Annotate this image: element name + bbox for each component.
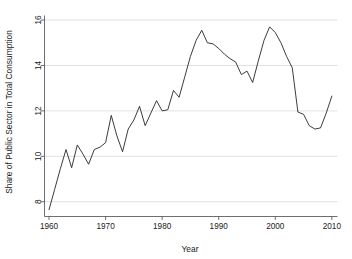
y-axis-tick-labels: 810121416 — [34, 15, 43, 204]
grid-lines — [45, 20, 338, 202]
y-tick-label: 8 — [34, 199, 43, 204]
x-tick-label: 1980 — [153, 222, 172, 231]
x-tick-label: 2000 — [266, 222, 285, 231]
series-line — [49, 27, 332, 210]
x-tick-label: 1990 — [210, 222, 229, 231]
x-tick-label: 2010 — [323, 222, 342, 231]
tick-marks — [41, 20, 332, 220]
x-tick-label: 1960 — [40, 222, 59, 231]
y-tick-label: 10 — [34, 151, 43, 161]
y-tick-label: 16 — [34, 15, 43, 25]
axis-lines — [45, 16, 338, 217]
data-series — [49, 27, 332, 210]
y-axis-title: Share of Public Sector in Total Consumpt… — [4, 30, 14, 194]
x-axis-title: Year — [182, 244, 199, 254]
x-tick-label: 1970 — [96, 222, 115, 231]
x-axis-tick-labels: 196019701980199020002010 — [40, 222, 341, 231]
y-tick-label: 14 — [34, 60, 43, 70]
line-chart: 810121416 196019701980199020002010 Year … — [0, 0, 352, 259]
y-tick-label: 12 — [34, 106, 43, 116]
chart-container: 810121416 196019701980199020002010 Year … — [0, 0, 352, 259]
